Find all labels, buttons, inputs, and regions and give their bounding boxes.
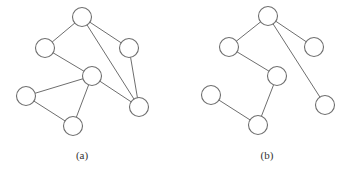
edge-a-top-lower-right: [82, 17, 139, 107]
graph-a: (a): [17, 8, 149, 163]
node-a-upper-right: [120, 39, 139, 58]
edge-b-top-lower-right: [268, 16, 325, 105]
graph-b-caption: (b): [261, 149, 274, 162]
graph-b: (b): [202, 7, 335, 163]
graph-b-edges: [211, 16, 325, 125]
graph-a-caption: (a): [76, 149, 89, 162]
node-b-upper-right: [305, 38, 324, 57]
node-a-lower-right: [130, 98, 149, 117]
node-b-upper-left: [220, 38, 239, 57]
node-a-top: [73, 8, 92, 27]
graph-a-edges: [26, 17, 139, 126]
node-b-middle: [268, 67, 287, 86]
node-b-left: [202, 86, 221, 105]
node-b-top: [259, 7, 278, 26]
node-a-left: [17, 87, 36, 106]
node-a-middle: [83, 67, 102, 86]
node-a-bottom: [64, 117, 83, 136]
edge-a-middle-left: [26, 76, 92, 96]
graph-a-nodes: [17, 8, 149, 136]
graph-figure: (a) (b): [0, 0, 349, 176]
node-b-lower-right: [316, 96, 335, 115]
node-a-upper-left: [36, 39, 55, 58]
node-b-bottom: [249, 116, 268, 135]
